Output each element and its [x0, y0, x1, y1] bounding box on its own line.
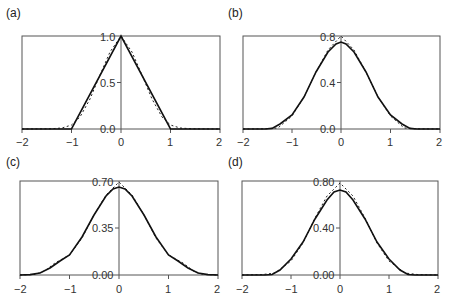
- x-tick-label: 2: [436, 136, 442, 148]
- x-tick-label: 0: [338, 136, 344, 148]
- x-tick-label: −1: [64, 283, 77, 295]
- x-tick-label: −1: [286, 136, 299, 148]
- x-tick-label: 0: [337, 283, 343, 295]
- y-tick-label: 0.35: [92, 222, 113, 234]
- y-tick-label: 0.40: [313, 222, 334, 234]
- y-tick-label: 0.0: [320, 123, 335, 135]
- y-tick-label: 0.70: [92, 176, 113, 188]
- x-tick-label: −2: [237, 136, 250, 148]
- y-tick-label: 0.0: [100, 123, 115, 135]
- x-tick-label: 2: [216, 136, 222, 148]
- panel-c: (c) −2 −1 0 1 2 0.00 0.35 0.70: [6, 155, 220, 295]
- x-tick-label: 0: [116, 283, 122, 295]
- panel-d: (d) −2 −1 0 1 2 0.00 0.40 0.80: [228, 155, 440, 295]
- y-tick-label: 0.00: [313, 269, 334, 281]
- x-tick-label: −2: [14, 283, 27, 295]
- x-ticks: [243, 129, 440, 133]
- x-ticks: [20, 275, 218, 279]
- x-tick-label: 2: [214, 283, 220, 295]
- y-tick-label: 0.80: [313, 176, 334, 188]
- x-tick-label: −1: [66, 136, 79, 148]
- y-tick-label: 1.0: [100, 31, 115, 43]
- x-tick-label: 2: [434, 283, 440, 295]
- x-tick-label: 1: [165, 283, 171, 295]
- panel-label: (d): [228, 155, 243, 169]
- panel-label: (c): [6, 155, 20, 169]
- panel-b: (b) −2 −1 0 1 2 0.0 0.4 0.8: [228, 6, 442, 148]
- y-tick-label: 0.00: [92, 269, 113, 281]
- y-tick-label: 0.5: [100, 77, 115, 89]
- panel-label: (a): [6, 6, 21, 20]
- y-tick-label: 0.8: [320, 31, 335, 43]
- x-tick-label: 0: [118, 136, 124, 148]
- y-tick-label: 0.4: [320, 77, 335, 89]
- x-tick-label: 1: [167, 136, 173, 148]
- panel-a: (a) −2 −1 0 1 2 0.0 0.5 1.0: [6, 6, 222, 148]
- panel-label: (b): [228, 6, 243, 20]
- figure: (a) −2 −1 0 1 2 0.0 0.5 1.0 (b): [0, 0, 457, 304]
- x-tick-label: 1: [386, 283, 392, 295]
- x-tick-label: −1: [285, 283, 298, 295]
- x-ticks: [242, 275, 438, 279]
- x-tick-label: 1: [387, 136, 393, 148]
- x-tick-label: −2: [16, 136, 29, 148]
- x-tick-label: −2: [236, 283, 249, 295]
